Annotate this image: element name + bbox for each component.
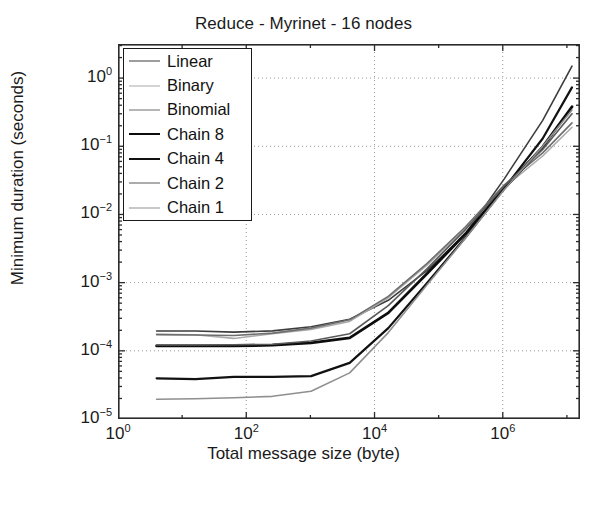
legend-item-chain-1[interactable]: Chain 1 (124, 195, 251, 219)
x-axis-tick-labels: 100102104106 (118, 424, 580, 450)
legend-item-binary[interactable]: Binary (124, 73, 251, 97)
legend-label: Chain 8 (167, 125, 224, 144)
legend-item-linear[interactable]: Linear (124, 49, 251, 73)
legend-label: Chain 2 (167, 174, 224, 193)
legend-swatch-icon (129, 54, 160, 68)
x-tick-label: 100 (88, 424, 148, 444)
y-tick-label: 10−3 (56, 272, 112, 292)
legend-label: Binary (167, 76, 214, 95)
legend-swatch-icon (129, 79, 160, 93)
legend-item-chain-8[interactable]: Chain 8 (124, 122, 251, 146)
legend-label: Chain 4 (167, 149, 224, 168)
legend-swatch-icon (129, 103, 160, 117)
legend-item-chain-4[interactable]: Chain 4 (124, 147, 251, 171)
legend-label: Chain 1 (167, 198, 224, 217)
legend-item-binomial[interactable]: Binomial (124, 98, 251, 122)
legend-label: Binomial (167, 100, 230, 119)
y-axis-tick-labels: 10010−110−210−310−410−5 (52, 44, 112, 419)
y-tick-label: 10−1 (56, 135, 112, 155)
legend[interactable]: LinearBinaryBinomialChain 8Chain 4Chain … (123, 48, 252, 221)
legend-swatch-icon (129, 127, 160, 141)
legend-swatch-icon (129, 176, 160, 190)
legend-label: Linear (167, 52, 213, 71)
x-tick-label: 106 (473, 424, 533, 444)
y-tick-label: 100 (56, 67, 112, 87)
legend-swatch-icon (129, 201, 160, 215)
chart-title: Reduce - Myrinet - 16 nodes (0, 14, 607, 34)
y-tick-label: 10−2 (56, 203, 112, 223)
x-tick-label: 102 (216, 424, 276, 444)
x-tick-label: 104 (345, 424, 405, 444)
figure-canvas: Reduce - Myrinet - 16 nodes Minimum dura… (0, 0, 607, 509)
y-axis-label: Minimum duration (seconds) (8, 0, 28, 378)
legend-swatch-icon (129, 152, 160, 166)
y-tick-label: 10−4 (56, 340, 112, 360)
legend-item-chain-2[interactable]: Chain 2 (124, 171, 251, 195)
